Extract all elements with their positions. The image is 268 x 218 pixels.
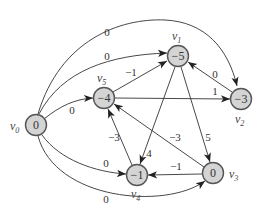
node-v5-value: −4: [98, 91, 111, 105]
node-v5: −4 v5: [94, 71, 115, 109]
weight-v0-v3: 0: [103, 193, 109, 205]
weight-v3-v4: −1: [170, 160, 182, 172]
edge-v2-v1: [188, 62, 232, 92]
node-v4-label: v4: [131, 187, 140, 203]
weight-v0-v5: 0: [69, 104, 75, 116]
graph-diagram: 0 0 0 0 0 −1 1 0 4 5 −3 −1 −3 0 v0 −5 v1…: [0, 0, 268, 218]
edge-v5-v1: [113, 61, 167, 92]
weight-v1-v3: 5: [205, 131, 211, 143]
edge-v3-v4: [148, 174, 202, 175]
node-v0: 0 v0: [10, 115, 47, 136]
node-v3-label: v3: [229, 167, 238, 183]
weight-v0-v2: 0: [104, 26, 110, 38]
weight-v5-v2: 1: [212, 85, 218, 97]
node-v2: −3 v2: [231, 89, 252, 129]
node-v0-value: 0: [33, 118, 39, 132]
node-v0-label: v0: [10, 119, 19, 135]
weight-v5-v1: −1: [125, 66, 137, 78]
edge-v1-v4: [140, 67, 175, 164]
node-v4-value: −1: [131, 168, 144, 182]
node-v3-value: 0: [210, 166, 216, 180]
weight-v4-v5: −3: [108, 131, 120, 143]
node-v1-label: v1: [172, 29, 181, 45]
weight-v0-v1: 0: [104, 50, 110, 62]
node-v4: −1 v4: [127, 165, 148, 204]
node-v1-value: −5: [172, 49, 185, 63]
weight-v1-v4: 4: [146, 147, 152, 159]
edge-v1-v3: [181, 67, 210, 162]
node-v2-label: v2: [235, 112, 244, 128]
edge-v3-v5: [114, 104, 204, 167]
node-v3: 0 v3: [203, 163, 239, 184]
weight-v0-v4: 0: [103, 157, 109, 169]
edge-v5-v2: [115, 98, 230, 99]
node-v5-label: v5: [97, 71, 106, 87]
node-v1: −5 v1: [168, 29, 189, 67]
edge-v0-v2: [38, 20, 237, 114]
node-v2-value: −3: [235, 92, 248, 106]
weight-v3-v5: −3: [169, 131, 181, 143]
weight-v2-v1: 0: [212, 68, 218, 80]
